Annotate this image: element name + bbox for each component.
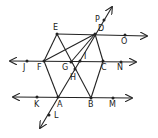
- point-label-d: D: [98, 24, 104, 33]
- point-label-l: L: [54, 111, 59, 120]
- point-p: [103, 19, 106, 22]
- point-label-h: H: [70, 73, 76, 82]
- point-a: [57, 96, 60, 99]
- point-label-i: I: [84, 52, 86, 61]
- point-label-p: P: [95, 15, 100, 24]
- segment-DG: [71, 34, 95, 62]
- lines-layer: [10, 7, 147, 128]
- point-l: [48, 114, 51, 117]
- line-EO: [57, 34, 147, 36]
- point-label-g: G: [62, 63, 68, 72]
- point-label-o: O: [121, 37, 127, 46]
- point-f: [43, 60, 46, 63]
- point-label-k: K: [34, 100, 40, 109]
- segments-layer: [44, 34, 103, 98]
- segment-FA: [44, 61, 58, 97]
- segment-DC: [95, 34, 103, 61]
- point-e: [56, 33, 59, 36]
- geometry-diagram: EDPOJFGICNHKABML: [0, 0, 158, 138]
- point-label-c: C: [101, 63, 107, 72]
- point-label-f: F: [37, 63, 42, 72]
- point-h: [74, 68, 77, 71]
- point-k: [36, 96, 39, 99]
- point-label-j: J: [22, 63, 25, 72]
- point-label-n: N: [117, 63, 123, 72]
- point-g: [70, 61, 73, 64]
- point-label-m: M: [109, 100, 116, 109]
- line-JN: [10, 61, 136, 62]
- point-label-e: E: [53, 23, 58, 32]
- diagram-canvas: EDPOJFGICNHKABML: [0, 0, 158, 138]
- point-i: [79, 60, 82, 63]
- point-d: [94, 33, 97, 36]
- point-j: [26, 60, 29, 63]
- point-label-b: B: [88, 100, 94, 109]
- point-label-a: A: [57, 100, 63, 109]
